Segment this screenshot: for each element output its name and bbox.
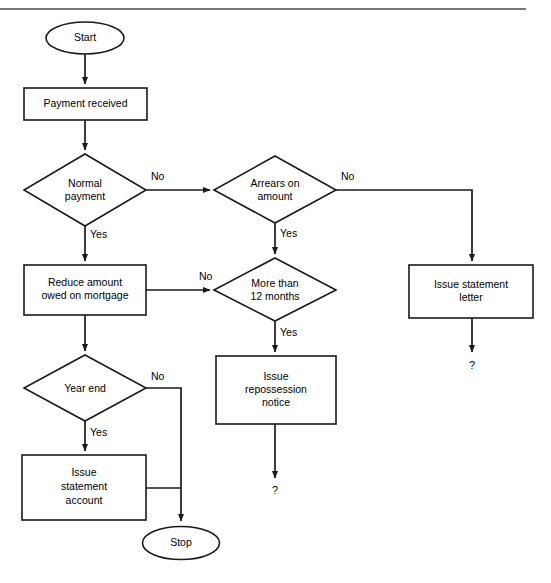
node-repossession-line1: Issue: [263, 370, 288, 382]
node-arrears-line2: amount: [257, 190, 292, 202]
node-normal-payment-line2: payment: [65, 190, 105, 202]
edge-label-normal-payment-no: No: [151, 170, 165, 182]
flowchart-canvas: Start Payment received Normal payment Ar…: [0, 0, 551, 583]
node-normal-payment-line1: Normal: [68, 177, 102, 189]
edge-label-normal-payment-yes: Yes: [90, 228, 107, 240]
open-end-repossession: ?: [272, 484, 278, 496]
node-repossession-line2: repossession: [245, 383, 307, 395]
node-stop-label: Stop: [170, 536, 192, 548]
open-end-statement-letter: ?: [469, 359, 475, 371]
node-reduce-amount-line2: owed on mortgage: [42, 289, 129, 301]
node-statement-account-line3: account: [66, 494, 103, 506]
flowchart-svg: Start Payment received Normal payment Ar…: [0, 0, 551, 583]
node-statement-account-line2: statement: [61, 480, 107, 492]
node-more-than-12-line1: More than: [251, 277, 298, 289]
node-year-end-label: Year end: [64, 382, 106, 394]
node-reduce-amount-line1: Reduce amount: [48, 276, 122, 288]
node-more-than-12-line2: 12 months: [250, 290, 299, 302]
edge-label-arrears-no: No: [341, 170, 355, 182]
node-statement-letter-line2: letter: [459, 291, 483, 303]
node-repossession-line3: notice: [262, 396, 290, 408]
node-statement-letter-line1: Issue statement: [434, 278, 508, 290]
edge-label-year-end-no: No: [151, 370, 165, 382]
edge-label-year-end-yes: Yes: [90, 426, 107, 438]
connector-arrears-no-to-letter: [336, 190, 472, 261]
edge-label-more-than-12-yes: Yes: [280, 326, 297, 338]
edge-label-arrears-yes: Yes: [280, 227, 297, 239]
connector-yearend-no-to-stop: [146, 388, 181, 521]
node-statement-account-line1: Issue: [71, 466, 96, 478]
node-start-label: Start: [74, 31, 96, 43]
node-payment-received-label: Payment received: [43, 97, 127, 109]
edge-label-reduce-no: No: [199, 270, 213, 282]
node-arrears-line1: Arrears on: [250, 177, 299, 189]
